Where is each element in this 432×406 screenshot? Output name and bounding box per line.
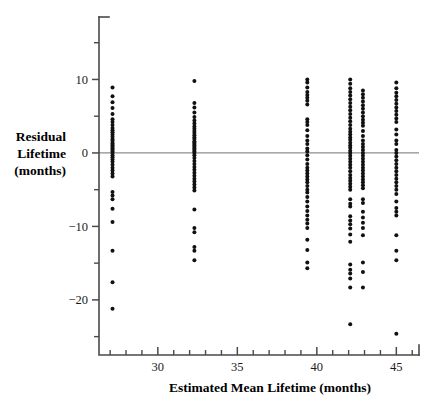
data-point <box>394 155 398 159</box>
data-point <box>348 105 352 109</box>
data-point <box>305 138 309 142</box>
data-point <box>305 80 309 84</box>
data-point <box>348 268 352 272</box>
x-tick-label: 30 <box>152 360 165 374</box>
data-point <box>348 277 352 281</box>
data-point <box>394 169 398 173</box>
data-point <box>348 86 352 90</box>
data-point <box>361 285 365 289</box>
data-point <box>305 205 309 209</box>
y-tick-label: −20 <box>68 293 88 307</box>
y-tick-label: 0 <box>82 146 88 160</box>
data-point <box>305 195 309 199</box>
data-point <box>305 162 309 166</box>
data-point <box>348 271 352 275</box>
data-point <box>348 214 352 218</box>
data-point <box>192 249 196 253</box>
data-point <box>361 111 365 115</box>
data-point <box>348 240 352 244</box>
data-point <box>361 210 365 214</box>
data-point <box>361 138 365 142</box>
data-point <box>192 226 196 230</box>
data-point <box>394 105 398 109</box>
data-point <box>394 98 398 102</box>
y-axis-title-line: (months) <box>14 163 66 178</box>
data-point <box>348 94 352 98</box>
data-point <box>348 101 352 105</box>
data-point <box>348 232 352 236</box>
data-point <box>305 128 309 132</box>
data-point <box>394 188 398 192</box>
data-point <box>361 100 365 104</box>
data-point <box>361 221 365 225</box>
data-point <box>305 123 309 127</box>
data-point <box>305 266 309 270</box>
data-point <box>361 233 365 237</box>
data-point <box>305 191 309 195</box>
data-point <box>111 106 115 110</box>
data-point <box>361 107 365 111</box>
data-point <box>394 177 398 181</box>
data-point <box>111 307 115 311</box>
y-tick-label: −10 <box>68 220 88 234</box>
chart-figure: 100−10−20 30354045 ResidualLifetime(mont… <box>0 0 432 406</box>
data-point <box>361 129 365 133</box>
data-point <box>394 166 398 170</box>
data-point <box>394 113 398 117</box>
data-point <box>394 258 398 262</box>
data-point <box>111 249 115 253</box>
data-point <box>394 233 398 237</box>
data-point <box>361 197 365 201</box>
data-point <box>361 103 365 107</box>
data-point <box>348 77 352 81</box>
data-point <box>348 222 352 226</box>
data-point <box>394 192 398 196</box>
data-point <box>305 184 309 188</box>
data-point <box>394 249 398 253</box>
data-point <box>305 149 309 153</box>
data-point <box>348 188 352 192</box>
data-point <box>394 86 398 90</box>
data-point <box>394 199 398 203</box>
data-point <box>348 197 352 201</box>
data-point <box>394 210 398 214</box>
data-point <box>348 108 352 112</box>
data-point <box>111 174 115 178</box>
data-point <box>394 94 398 98</box>
data-point <box>111 100 115 104</box>
y-tick-label: 10 <box>76 73 89 87</box>
data-point <box>348 90 352 94</box>
data-point <box>394 151 398 155</box>
y-axis-title-line: Lifetime <box>17 146 66 161</box>
data-point <box>305 99 309 103</box>
data-point <box>305 86 309 90</box>
data-point <box>394 173 398 177</box>
x-tick-label: 45 <box>390 360 403 374</box>
data-point <box>111 190 115 194</box>
data-point <box>305 142 309 146</box>
data-point <box>348 123 352 127</box>
data-point <box>361 114 365 118</box>
data-point <box>361 88 365 92</box>
data-point <box>111 194 115 198</box>
data-point <box>305 209 309 213</box>
x-axis-title-text: Estimated Mean Lifetime (months) <box>169 380 371 395</box>
data-point <box>192 105 196 109</box>
data-point <box>394 133 398 137</box>
data-point <box>394 332 398 336</box>
data-point <box>305 153 309 157</box>
data-point <box>348 97 352 101</box>
data-point <box>361 124 365 128</box>
data-point <box>305 238 309 242</box>
data-point <box>348 205 352 209</box>
data-point <box>111 280 115 284</box>
data-point <box>192 79 196 83</box>
data-point <box>111 112 115 116</box>
data-point <box>192 188 196 192</box>
data-point <box>348 285 352 289</box>
data-point <box>348 322 352 326</box>
data-point <box>394 162 398 166</box>
data-point <box>111 197 115 201</box>
data-point <box>394 127 398 131</box>
data-point <box>361 216 365 220</box>
